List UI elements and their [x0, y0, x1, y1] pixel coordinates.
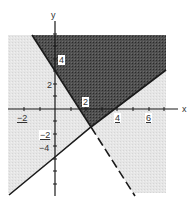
y-tick-label-neg4: −4	[39, 143, 49, 153]
x-tick-label-2: 2	[82, 97, 89, 107]
inequality-graph	[0, 0, 194, 206]
y-tick-label-neg2: −2	[39, 130, 51, 140]
x-tick-label-neg2: −2	[17, 113, 27, 123]
y-axis-label: y	[51, 10, 56, 20]
y-tick-label-4: 4	[58, 55, 65, 65]
x-axis-label: x	[182, 104, 187, 114]
y-tick-label-2: 2	[47, 80, 52, 90]
x-tick-label-6: 6	[145, 113, 152, 123]
x-tick-label-4: 4	[114, 113, 121, 123]
